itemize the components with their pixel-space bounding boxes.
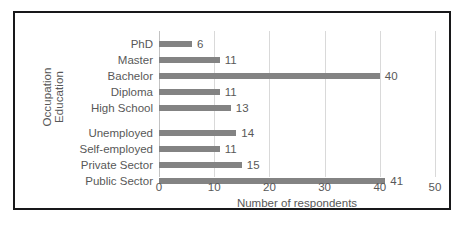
category-label: High School	[91, 101, 153, 115]
bar	[159, 41, 192, 47]
bar	[159, 162, 242, 168]
category-label: PhD	[131, 37, 153, 51]
bar-value-label: 14	[241, 126, 254, 140]
category-label: Unemployed	[88, 126, 153, 140]
bar	[159, 57, 220, 63]
bar-value-label: 15	[247, 158, 260, 172]
bar	[159, 89, 220, 95]
bar-value-label: 11	[225, 53, 237, 67]
chart-row: Unemployed14	[159, 126, 468, 140]
category-label: Self-employed	[79, 142, 153, 156]
chart-row: Self-employed11	[159, 142, 468, 156]
chart-row: Master11	[159, 53, 468, 67]
bar-value-label: 40	[385, 69, 398, 83]
x-axis-tick-labels: 01020304050	[159, 179, 435, 195]
bar	[159, 105, 231, 111]
plot-area: PhD6Master11Bachelor40Diploma11High Scho…	[159, 31, 435, 177]
bar-value-label: 6	[197, 37, 203, 51]
chart-row: Private Sector15	[159, 158, 468, 172]
chart-frame: Occupation Education PhD6Master11Bachelo…	[13, 11, 451, 210]
x-tick-label: 30	[318, 179, 331, 195]
bar	[159, 146, 220, 152]
x-tick-label: 50	[429, 179, 442, 195]
category-label: Master	[118, 53, 153, 67]
category-label: Private Sector	[81, 158, 153, 172]
x-tick-label: 20	[263, 179, 276, 195]
chart-row: Bachelor40	[159, 69, 468, 83]
chart-row: Diploma11	[159, 85, 468, 99]
chart-row: PhD6	[159, 37, 468, 51]
y-axis-title-education: Education	[53, 53, 65, 141]
bar	[159, 73, 380, 79]
bar	[159, 130, 236, 136]
x-tick-label: 0	[156, 179, 162, 195]
figure-container: Occupation Education PhD6Master11Bachelo…	[0, 0, 468, 230]
bar-value-label: 11	[225, 85, 237, 99]
x-tick-label: 40	[373, 179, 386, 195]
y-axis-title-occupation: Occupation	[41, 53, 53, 141]
category-label: Diploma	[111, 85, 153, 99]
x-tick-label: 10	[208, 179, 221, 195]
x-axis-title: Number of respondents	[159, 197, 435, 209]
bar-value-label: 13	[236, 101, 249, 115]
bar-value-label: 11	[225, 142, 237, 156]
category-label: Bachelor	[108, 69, 153, 83]
category-label: Public Sector	[85, 174, 153, 188]
chart-row: High School13	[159, 101, 468, 115]
